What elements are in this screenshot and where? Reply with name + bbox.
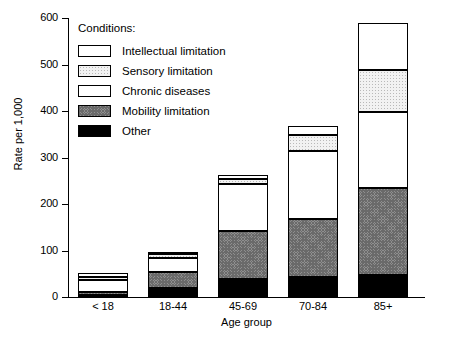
bar-segment-mobility-limitation xyxy=(148,272,198,287)
y-axis-tick-label: 300 xyxy=(28,152,58,163)
legend-item-label: Other xyxy=(122,125,151,138)
bar-segment-sensory-limitation xyxy=(358,70,408,112)
bar-segment-sensory-limitation xyxy=(148,254,198,258)
bar-segment-chronic-diseases xyxy=(218,184,268,231)
bar-chart: 0100200300400500600 Rate per 1,000 Age g… xyxy=(0,0,453,337)
bar-segment-intellectual-limitation xyxy=(148,252,198,254)
legend-item: Mobility limitation xyxy=(78,101,226,121)
bar-segment-other xyxy=(148,288,198,297)
legend-swatch-icon xyxy=(78,85,111,97)
y-axis-tick-label: 400 xyxy=(28,105,58,116)
legend-item-label: Sensory limitation xyxy=(122,65,213,78)
y-axis-tick xyxy=(62,158,68,159)
bar-segment-intellectual-limitation xyxy=(288,126,338,134)
y-axis-line xyxy=(68,18,69,298)
legend-title: Conditions: xyxy=(78,22,226,35)
y-axis-tick xyxy=(62,65,68,66)
bar-segment-other xyxy=(358,275,408,297)
bar-segment-chronic-diseases xyxy=(78,280,128,292)
y-axis-tick xyxy=(62,111,68,112)
y-axis-tick-label: 200 xyxy=(28,198,58,209)
legend-swatch-icon xyxy=(78,105,111,117)
legend-swatch-icon xyxy=(78,65,111,77)
y-axis-tick xyxy=(62,204,68,205)
bar-segment-intellectual-limitation xyxy=(358,23,408,70)
bar xyxy=(288,0,338,297)
y-axis-title: Rate per 1,000 xyxy=(12,64,24,204)
y-axis-tick-label: 0 xyxy=(28,291,58,302)
bar-segment-chronic-diseases xyxy=(358,112,408,188)
x-axis-tick-label: 45-69 xyxy=(213,300,273,312)
legend-item: Other xyxy=(78,121,226,141)
legend: Conditions: Intellectual limitationSenso… xyxy=(78,22,226,141)
bar-segment-sensory-limitation xyxy=(78,277,128,280)
x-axis-title: Age group xyxy=(68,316,425,328)
bar-segment-other xyxy=(78,295,128,297)
bar-segment-intellectual-limitation xyxy=(218,175,268,180)
bar-segment-intellectual-limitation xyxy=(78,273,128,278)
x-axis-line xyxy=(68,297,425,298)
legend-item-label: Mobility limitation xyxy=(122,105,210,118)
bar-segment-chronic-diseases xyxy=(148,258,198,272)
y-axis-tick-label: 600 xyxy=(28,12,58,23)
bar-segment-chronic-diseases xyxy=(288,151,338,219)
bar xyxy=(358,0,408,297)
legend-item: Sensory limitation xyxy=(78,61,226,81)
legend-swatch-icon xyxy=(78,45,111,57)
x-axis-tick-label: 85+ xyxy=(353,300,413,312)
x-axis-tick-label: 18-44 xyxy=(143,300,203,312)
bar-segment-sensory-limitation xyxy=(218,179,268,184)
x-axis-tick-label: < 18 xyxy=(73,300,133,312)
legend-item: Chronic diseases xyxy=(78,81,226,101)
x-axis-tick-label: 70-84 xyxy=(283,300,343,312)
legend-items: Intellectual limitationSensory limitatio… xyxy=(78,41,226,141)
bar-segment-mobility-limitation xyxy=(358,188,408,275)
legend-swatch-icon xyxy=(78,125,111,137)
bar-segment-other xyxy=(218,279,268,297)
bar-segment-other xyxy=(288,277,338,297)
y-axis-tick-label: 100 xyxy=(28,245,58,256)
y-axis-tick xyxy=(62,297,68,298)
legend-item-label: Chronic diseases xyxy=(122,85,210,98)
bar-segment-mobility-limitation xyxy=(78,292,128,294)
bar-segment-mobility-limitation xyxy=(218,231,268,279)
legend-item-label: Intellectual limitation xyxy=(122,45,226,58)
y-axis-tick xyxy=(62,18,68,19)
y-axis-tick-label: 500 xyxy=(28,59,58,70)
legend-item: Intellectual limitation xyxy=(78,41,226,61)
bar-segment-mobility-limitation xyxy=(288,219,338,277)
y-axis-tick xyxy=(62,251,68,252)
bar-segment-sensory-limitation xyxy=(288,135,338,151)
